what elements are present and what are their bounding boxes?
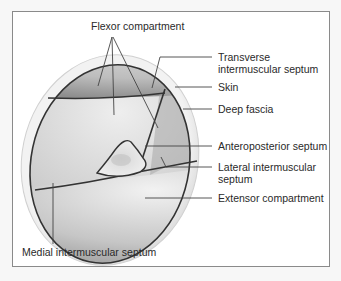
label-lateral-line1: Lateral intermuscular	[218, 162, 316, 174]
label-medial-septum: Medial intermuscular septum	[22, 247, 156, 259]
label-transverse-septum: Transverse intermuscular septum	[218, 52, 318, 75]
label-deep-fascia: Deep fascia	[218, 104, 273, 116]
label-flexor-compartment: Flexor compartment	[91, 21, 184, 33]
label-transverse-line1: Transverse	[218, 52, 318, 64]
label-lateral-septum: Lateral intermuscular septum	[218, 162, 316, 185]
label-anteroposterior-septum: Anteroposterior septum	[218, 141, 327, 153]
label-skin: Skin	[218, 82, 238, 94]
label-extensor-compartment: Extensor compartment	[218, 193, 324, 205]
label-lateral-line2: septum	[218, 174, 316, 186]
label-transverse-line2: intermuscular septum	[218, 64, 318, 76]
